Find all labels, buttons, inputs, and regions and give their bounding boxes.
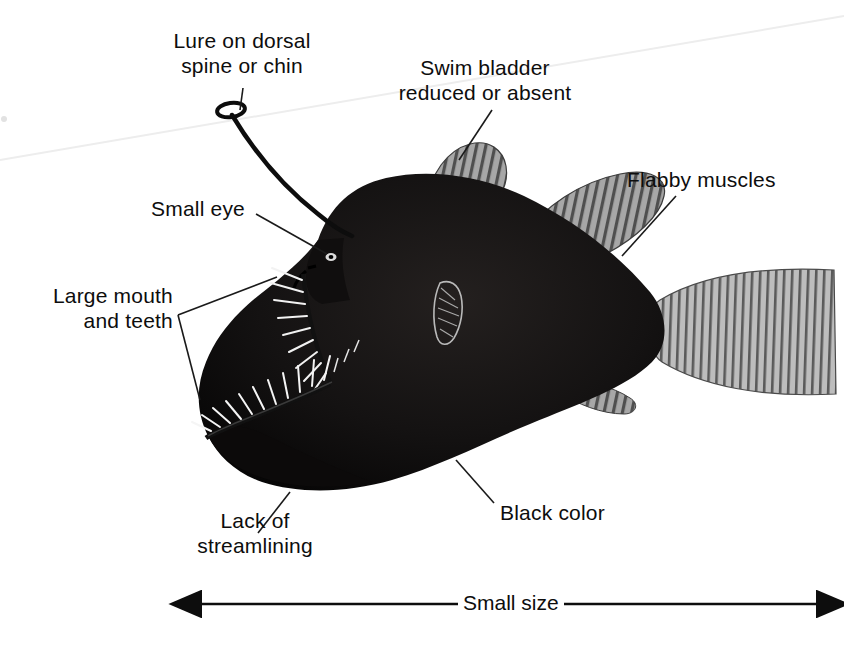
label-lure: Lure on dorsal spine or chin (152, 28, 332, 78)
label-large-mouth-and-teeth: Large mouth and teeth (10, 283, 173, 333)
label-black-color: Black color (500, 500, 605, 525)
leader-black-color (456, 460, 494, 503)
leader-small-eye (256, 214, 327, 254)
label-flabby-muscles: Flabby muscles (627, 167, 776, 192)
anglerfish-diagram: Lure on dorsal spine or chin Swim bladde… (0, 0, 844, 646)
label-small-size: Small size (458, 592, 564, 614)
leader-mouth-lower (178, 315, 200, 400)
caudal-fin (649, 269, 836, 395)
label-small-eye: Small eye (30, 196, 245, 221)
label-lack-of-streamlining: Lack of streamlining (155, 508, 355, 558)
label-swim-bladder: Swim bladder reduced or absent (370, 55, 600, 105)
eye (326, 253, 337, 261)
